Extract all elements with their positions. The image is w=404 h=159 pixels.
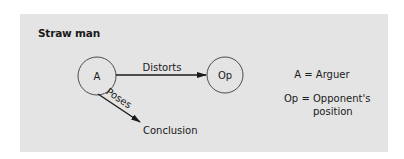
- legend-key-op: Op: [284, 93, 298, 104]
- edge-distorts: Distorts: [116, 62, 206, 75]
- node-opponent-position: Op: [207, 57, 243, 93]
- node-opponent-position-label: Op: [218, 70, 232, 81]
- legend-equals: =: [301, 93, 309, 104]
- legend-item-opponent-position-line2: position: [313, 106, 353, 117]
- legend-value-opponent-line1: Opponent's: [313, 93, 370, 104]
- legend-value-opponent-line2: position: [313, 106, 353, 117]
- poses-label: Poses: [104, 86, 134, 111]
- edge-poses: Poses: [98, 86, 140, 122]
- legend-key-a: A: [294, 69, 301, 80]
- node-arguer-label: A: [94, 71, 101, 82]
- legend-item-arguer: A = Arguer: [291, 69, 350, 80]
- legend-equals: =: [304, 69, 312, 80]
- distorts-label: Distorts: [143, 62, 182, 73]
- legend-item-opponent-position: Op = Opponent's: [284, 93, 370, 104]
- conclusion-label: Conclusion: [143, 125, 198, 136]
- legend-value-arguer: Arguer: [316, 69, 350, 80]
